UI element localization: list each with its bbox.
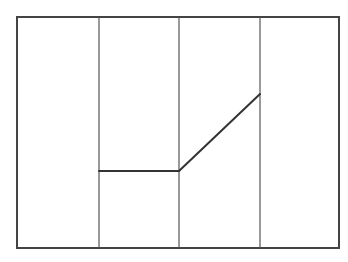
column-dividers	[99, 17, 260, 248]
diagram-canvas	[0, 0, 348, 262]
outer-frame	[17, 17, 339, 248]
